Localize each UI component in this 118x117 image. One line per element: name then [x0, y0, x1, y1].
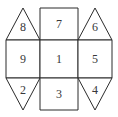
face-4-label: 4: [85, 84, 105, 96]
face-1-label: 1: [49, 53, 69, 65]
face-3-label: 3: [49, 88, 69, 100]
polyhedron-net-figure: 8 7 6 9 1 5 2 3 4: [0, 0, 118, 117]
face-6-label: 6: [85, 21, 105, 33]
face-5-label: 5: [85, 53, 105, 65]
face-8-label: 8: [13, 21, 33, 33]
face-7-label: 7: [49, 18, 69, 30]
face-2-label: 2: [13, 84, 33, 96]
face-9-label: 9: [13, 53, 33, 65]
